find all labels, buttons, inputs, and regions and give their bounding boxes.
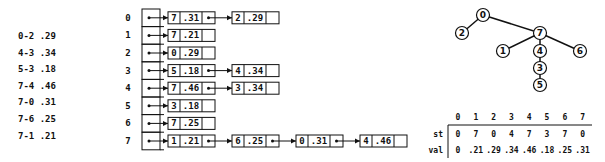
list-node: 7.25 bbox=[168, 117, 215, 129]
table-cell: 7 bbox=[473, 130, 478, 139]
node-vertex: 7 bbox=[171, 13, 176, 23]
list-node: 3.34 bbox=[232, 82, 279, 94]
adjacency-row-5: 53.18 bbox=[125, 97, 215, 115]
node-vertex: 0 bbox=[299, 136, 304, 146]
column-header: 3 bbox=[509, 113, 514, 122]
row-label: st bbox=[433, 130, 443, 139]
tree-node-0: 0 bbox=[477, 9, 490, 22]
list-node: 4.34 bbox=[232, 65, 279, 77]
list-node: 6.25 bbox=[232, 135, 279, 147]
node-weight: .46 bbox=[375, 136, 391, 146]
list-node: 7.46 bbox=[168, 82, 215, 94]
list-node: 5.18 bbox=[168, 65, 215, 77]
node-vertex: 3 bbox=[171, 101, 176, 111]
node-weight: .25 bbox=[247, 136, 263, 146]
node-vertex: 0 bbox=[171, 48, 176, 58]
tree-node-7: 7 bbox=[534, 27, 547, 40]
node-weight: .34 bbox=[247, 66, 264, 76]
adjacency-row-3: 35.184.34 bbox=[125, 62, 279, 80]
list-node: 3.18 bbox=[168, 100, 215, 112]
node-weight: .18 bbox=[183, 101, 199, 111]
tree-node-6: 6 bbox=[574, 45, 587, 58]
table-cell: .46 bbox=[522, 146, 537, 155]
column-header: 5 bbox=[545, 113, 550, 122]
table-cell: 0 bbox=[456, 130, 461, 139]
adjacency-row-4: 47.463.34 bbox=[125, 79, 279, 97]
node-weight: .29 bbox=[183, 48, 199, 58]
svg-text:3: 3 bbox=[537, 63, 543, 73]
node-weight: .18 bbox=[183, 66, 199, 76]
list-node: 2.29 bbox=[232, 12, 279, 24]
column-header: 4 bbox=[527, 113, 532, 122]
adjacency-lists: 07.312.2917.2120.2935.184.3447.463.3453.… bbox=[125, 9, 407, 150]
adjacency-row-6: 67.25 bbox=[125, 115, 215, 133]
column-header: 0 bbox=[456, 113, 461, 122]
table-cell: .34 bbox=[504, 146, 519, 155]
table-cell: 0 bbox=[491, 130, 496, 139]
node-weight: .31 bbox=[311, 136, 327, 146]
node-vertex: 3 bbox=[235, 83, 240, 93]
vertex-index: 6 bbox=[125, 118, 130, 128]
diagram-canvas: 07.312.2917.2120.2935.184.3447.463.3453.… bbox=[0, 0, 605, 162]
adjacency-row-0: 07.312.29 bbox=[125, 9, 279, 27]
row-label: val bbox=[429, 146, 444, 155]
node-weight: .46 bbox=[183, 83, 199, 93]
table-cell: 7 bbox=[562, 130, 567, 139]
vertex-index: 2 bbox=[125, 48, 130, 58]
list-node: 1.21 bbox=[168, 135, 215, 147]
svg-text:4: 4 bbox=[537, 46, 543, 56]
table-cell: 0 bbox=[456, 146, 461, 155]
table-cell: .25 bbox=[558, 146, 573, 155]
list-node: 7.31 bbox=[168, 12, 215, 24]
table-cell: .29 bbox=[486, 146, 501, 155]
adjacency-row-1: 17.21 bbox=[125, 27, 215, 45]
svg-text:5: 5 bbox=[537, 80, 543, 90]
node-weight: .29 bbox=[247, 13, 263, 23]
tree-node-3: 3 bbox=[534, 62, 547, 75]
node-vertex: 5 bbox=[171, 66, 176, 76]
vertex-index: 3 bbox=[125, 66, 130, 76]
tree-edge bbox=[483, 15, 540, 33]
table-cell: .31 bbox=[575, 146, 590, 155]
node-vertex: 7 bbox=[171, 118, 176, 128]
table-cell: 7 bbox=[527, 130, 532, 139]
column-header: 1 bbox=[473, 113, 478, 122]
node-weight: .31 bbox=[183, 13, 199, 23]
table-cell: 3 bbox=[545, 130, 550, 139]
table-cell: 4 bbox=[509, 130, 514, 139]
node-vertex: 2 bbox=[235, 13, 240, 23]
adjacency-row-7: 71.216.250.314.46 bbox=[125, 132, 407, 150]
svg-text:1: 1 bbox=[500, 46, 506, 56]
adjacency-row-2: 20.29 bbox=[125, 44, 215, 62]
svg-text:7: 7 bbox=[537, 28, 543, 38]
list-node: 7.21 bbox=[168, 29, 215, 41]
vertex-index: 4 bbox=[125, 83, 131, 93]
list-node: 4.46 bbox=[360, 135, 407, 147]
table-cell: .21 bbox=[469, 146, 484, 155]
tree-node-2: 2 bbox=[456, 27, 469, 40]
node-vertex: 4 bbox=[235, 66, 241, 76]
node-vertex: 7 bbox=[171, 83, 176, 93]
node-weight: .25 bbox=[183, 118, 199, 128]
vertex-index: 7 bbox=[125, 136, 130, 146]
table-cell: .18 bbox=[540, 146, 555, 155]
spanning-tree: 02714635 bbox=[456, 9, 587, 92]
node-vertex: 7 bbox=[171, 30, 176, 40]
vertex-index: 1 bbox=[125, 30, 130, 40]
node-weight: .21 bbox=[183, 136, 199, 146]
node-vertex: 4 bbox=[363, 136, 369, 146]
column-header: 6 bbox=[562, 113, 567, 122]
node-weight: .21 bbox=[183, 30, 199, 40]
svg-text:6: 6 bbox=[577, 46, 583, 56]
node-vertex: 6 bbox=[235, 136, 240, 146]
table-cell: 0 bbox=[580, 130, 585, 139]
mst-table: 01234567st07047370val0.21.29.34.46.18.25… bbox=[429, 113, 592, 159]
list-node: 0.31 bbox=[296, 135, 343, 147]
list-node: 0.29 bbox=[168, 47, 215, 59]
node-vertex: 1 bbox=[171, 136, 176, 146]
tree-node-5: 5 bbox=[534, 79, 547, 92]
column-header: 7 bbox=[580, 113, 585, 122]
vertex-index: 5 bbox=[125, 101, 130, 111]
node-weight: .34 bbox=[247, 83, 264, 93]
tree-node-4: 4 bbox=[534, 45, 547, 58]
